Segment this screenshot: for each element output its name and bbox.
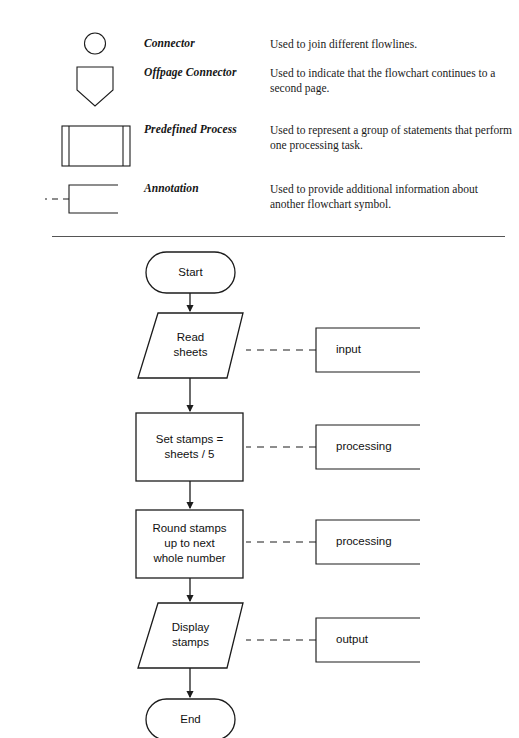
node-round-shape — [136, 510, 243, 578]
scanned-page: Connector Used to join different flowlin… — [0, 0, 519, 738]
node-end-shape — [146, 699, 235, 738]
node-setstamps-shape — [136, 413, 243, 481]
annotation-output-shape — [246, 618, 420, 662]
flowchart-layer — [0, 0, 519, 738]
annotation-processing-2-shape — [246, 520, 420, 564]
node-start-shape — [146, 252, 235, 293]
annotation-processing-1-shape — [246, 425, 420, 469]
node-display-shape — [138, 603, 243, 668]
annotation-input-shape — [246, 328, 420, 372]
node-read-shape — [138, 313, 243, 378]
